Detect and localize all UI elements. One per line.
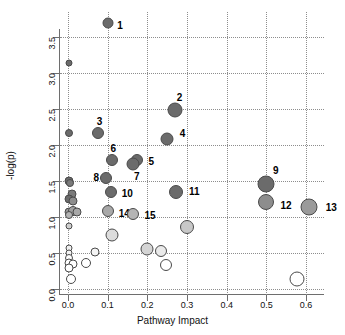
scatter-point-label: 9 <box>273 165 279 176</box>
scatter-point-labeled[interactable] <box>92 127 104 139</box>
scatter-point[interactable] <box>65 211 73 219</box>
scatter-point[interactable] <box>66 59 73 66</box>
y-tick-label: 3.5 <box>47 37 57 50</box>
scatter-point-label: 1 <box>117 19 123 30</box>
grid-line-horizontal <box>60 181 324 182</box>
y-tick-label: 1.5 <box>47 181 57 194</box>
y-tick-label: 0.0 <box>47 289 57 302</box>
x-tick-label: 0.0 <box>62 300 75 310</box>
x-axis-title: Pathway Impact <box>0 315 345 326</box>
scatter-point-labeled[interactable] <box>127 208 139 220</box>
scatter-point[interactable] <box>65 129 73 137</box>
scatter-point[interactable] <box>180 220 194 234</box>
scatter-point-labeled[interactable] <box>106 154 118 166</box>
grid-line-vertical <box>187 12 188 295</box>
y-axis-title-container: -log(p) <box>2 0 18 335</box>
scatter-point-label: 15 <box>144 209 155 220</box>
scatter-point[interactable] <box>65 264 74 273</box>
scatter-point-labeled[interactable] <box>105 186 117 198</box>
scatter-point-labeled[interactable] <box>301 198 318 215</box>
scatter-point[interactable] <box>72 208 81 217</box>
scatter-point-labeled[interactable] <box>169 185 183 199</box>
scatter-point-labeled[interactable] <box>100 172 112 184</box>
scatter-point[interactable] <box>66 274 76 284</box>
scatter-point-labeled[interactable] <box>127 157 140 170</box>
scatter-point-label: 8 <box>93 172 99 183</box>
scatter-point-labeled[interactable] <box>102 17 113 28</box>
scatter-point-label: 7 <box>134 170 140 181</box>
y-axis-title: -log(p) <box>5 144 16 188</box>
grid-line-horizontal <box>60 109 324 110</box>
x-tick-label: 0.2 <box>141 300 154 310</box>
scatter-point[interactable] <box>90 248 99 257</box>
grid-line-horizontal <box>60 253 324 254</box>
grid-line-horizontal <box>60 37 324 38</box>
y-tick-label: 0.5 <box>47 253 57 266</box>
scatter-point[interactable] <box>106 228 119 241</box>
scatter-point[interactable] <box>160 259 172 271</box>
scatter-point-labeled[interactable] <box>168 102 183 117</box>
x-tick-label: 0.4 <box>220 300 233 310</box>
scatter-point-label: 12 <box>280 199 291 210</box>
scatter-point-label: 3 <box>97 115 103 126</box>
grid-line-vertical <box>227 12 228 295</box>
scatter-plot-figure: -log(p) Pathway Impact 0.00.51.01.52.02.… <box>0 0 345 335</box>
x-tick-label: 0.6 <box>300 300 313 310</box>
grid-line-horizontal <box>60 289 324 290</box>
scatter-point-label: 13 <box>326 201 337 212</box>
scatter-point[interactable] <box>141 242 154 255</box>
grid-line-horizontal <box>60 73 324 74</box>
scatter-point[interactable] <box>290 272 305 287</box>
scatter-point-label: 10 <box>122 187 133 198</box>
scatter-point-labeled[interactable] <box>161 133 174 146</box>
y-tick-label: 2.5 <box>47 109 57 122</box>
scatter-point-label: 5 <box>148 155 154 166</box>
scatter-point[interactable] <box>66 179 74 187</box>
y-tick-label: 2.0 <box>47 145 57 158</box>
scatter-point-labeled[interactable] <box>258 194 274 210</box>
scatter-point[interactable] <box>155 245 167 257</box>
x-tick-label: 0.1 <box>101 300 114 310</box>
scatter-point-labeled[interactable] <box>258 176 275 193</box>
grid-line-horizontal <box>60 217 324 218</box>
y-tick-label: 1.0 <box>47 217 57 230</box>
scatter-point[interactable] <box>65 222 72 229</box>
scatter-point[interactable] <box>81 258 91 268</box>
grid-line-vertical <box>266 12 267 295</box>
scatter-point-label: 4 <box>180 128 186 139</box>
scatter-point[interactable] <box>68 197 77 206</box>
scatter-point-label: 11 <box>189 186 200 197</box>
x-tick-label: 0.5 <box>260 300 273 310</box>
scatter-point-labeled[interactable] <box>102 205 114 217</box>
grid-line-horizontal <box>60 145 324 146</box>
scatter-point-label: 2 <box>177 91 183 102</box>
plot-area <box>60 12 324 295</box>
grid-line-vertical <box>306 12 307 295</box>
grid-line-vertical <box>108 12 109 295</box>
x-tick-label: 0.3 <box>181 300 194 310</box>
scatter-point-label: 6 <box>111 143 117 154</box>
y-tick-label: 3.0 <box>47 73 57 86</box>
